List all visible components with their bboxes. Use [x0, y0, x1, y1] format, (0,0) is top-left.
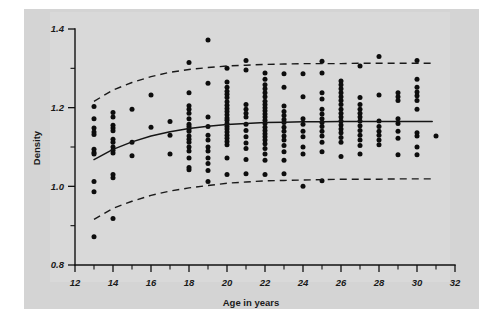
data-point [377, 93, 382, 98]
data-point [358, 137, 363, 142]
lower-reference-band-curve [94, 179, 432, 220]
data-point [358, 152, 363, 157]
y-tick-label: 1.0 [51, 181, 65, 192]
data-point [415, 93, 420, 98]
data-point [415, 107, 420, 112]
data-point [130, 107, 135, 112]
data-point [377, 133, 382, 138]
y-axis-tick-labels: 0.81.01.21.4 [51, 23, 65, 270]
x-tick-label: 24 [297, 277, 309, 288]
data-point [282, 129, 287, 134]
data-point [339, 135, 344, 140]
data-point [377, 137, 382, 142]
data-point [358, 123, 363, 128]
data-point [225, 142, 230, 147]
data-point [225, 156, 230, 161]
data-point [149, 93, 154, 98]
data-point [244, 171, 249, 176]
data-point [415, 145, 420, 150]
x-tick-label: 12 [70, 277, 81, 288]
x-tick-label: 32 [450, 277, 461, 288]
data-point [263, 152, 268, 157]
y-tick-label: 1.4 [51, 23, 65, 34]
data-point [111, 115, 116, 120]
data-point [282, 137, 287, 142]
data-point [282, 149, 287, 154]
data-point [377, 142, 382, 147]
data-point [187, 116, 192, 121]
y-tick-label: 0.8 [51, 259, 65, 270]
data-point [263, 77, 268, 82]
data-point [225, 80, 230, 85]
lower-band-path [94, 179, 432, 220]
data-point [282, 158, 287, 163]
data-point [149, 125, 154, 130]
x-tick-label: 26 [335, 277, 347, 288]
x-tick-label: 16 [146, 277, 157, 288]
data-point [206, 137, 211, 142]
data-point [111, 110, 116, 115]
data-point [320, 97, 325, 102]
data-point [168, 152, 173, 157]
data-point [92, 189, 97, 194]
data-point [320, 133, 325, 138]
data-point [92, 179, 97, 184]
data-point [396, 98, 401, 103]
data-point [396, 152, 401, 157]
data-point [263, 172, 268, 177]
data-point [301, 71, 306, 76]
data-point [206, 38, 211, 43]
data-point [282, 104, 287, 109]
data-point [130, 153, 135, 158]
data-point [225, 95, 230, 100]
data-point [263, 141, 268, 146]
data-point [206, 168, 211, 173]
data-point [434, 133, 439, 138]
data-point [282, 85, 287, 90]
data-point [320, 107, 325, 112]
data-point [396, 116, 401, 121]
data-point [377, 124, 382, 129]
data-point [92, 152, 97, 157]
data-point [92, 104, 97, 109]
data-point [111, 140, 116, 145]
data-point [187, 148, 192, 153]
data-point [206, 179, 211, 184]
data-point [244, 134, 249, 139]
data-point [282, 71, 287, 76]
data-point [206, 115, 211, 120]
data-point [415, 98, 420, 103]
data-point [301, 152, 306, 157]
x-axis-tick-labels: 1214161820222426283032 [70, 277, 461, 288]
x-tick-label: 30 [412, 277, 423, 288]
data-point [187, 167, 192, 172]
data-point [111, 216, 116, 221]
data-point [244, 102, 249, 107]
data-point [206, 161, 211, 166]
x-axis-ticks [75, 265, 455, 272]
data-point [187, 156, 192, 161]
data-point [396, 129, 401, 134]
data-point [244, 128, 249, 133]
data-point [263, 94, 268, 99]
data-point [282, 143, 287, 148]
x-tick-label: 14 [108, 277, 119, 288]
data-point [244, 115, 249, 120]
data-point [320, 129, 325, 134]
data-point [320, 140, 325, 145]
data-point [358, 133, 363, 138]
y-tick-label: 1.2 [51, 102, 65, 113]
scatter-plot-chart: 1214161820222426283032 0.81.01.21.4 Age … [0, 0, 502, 327]
data-point [244, 141, 249, 146]
data-point [187, 111, 192, 116]
data-point [339, 154, 344, 159]
data-point [187, 90, 192, 95]
data-point [358, 63, 363, 68]
data-point [301, 116, 306, 121]
data-point [358, 102, 363, 107]
data-point [111, 175, 116, 180]
data-point [320, 111, 325, 116]
data-point [320, 124, 325, 129]
data-point [282, 171, 287, 176]
data-point [396, 136, 401, 141]
